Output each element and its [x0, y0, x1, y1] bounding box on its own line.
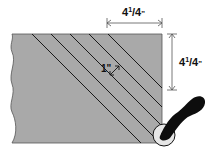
side-dimension-label: 41/4"	[179, 56, 202, 68]
strip-width-label: 1"	[101, 63, 112, 74]
top-dimension-label: 41/4"	[122, 6, 145, 18]
side-dimension	[167, 34, 177, 90]
diagram-canvas: 41/4" 41/4" 1"	[0, 0, 209, 148]
top-dimension	[107, 18, 162, 28]
